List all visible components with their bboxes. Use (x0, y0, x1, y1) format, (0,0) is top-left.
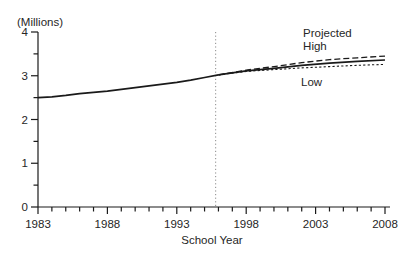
y-tick-label-2: 2 (22, 114, 28, 126)
y-tick-label-0: 0 (22, 201, 28, 213)
x-tick-label-1993: 1993 (164, 218, 190, 230)
x-axis-title: School Year (38, 234, 386, 246)
y-tick-label-1: 1 (22, 157, 28, 169)
x-tick-label-2008: 2008 (372, 218, 398, 230)
x-tick-label-1988: 1988 (95, 218, 121, 230)
x-tick-label-1998: 1998 (233, 218, 259, 230)
x-tick-label-1983: 1983 (25, 218, 51, 230)
chart-figure: 19831988199319982003200801234ProjectedHi… (0, 0, 405, 264)
line-chart: 19831988199319982003200801234ProjectedHi… (0, 0, 405, 264)
x-tick-label-2003: 2003 (303, 218, 329, 230)
y-tick-label-3: 3 (22, 70, 28, 82)
annotation-high: High (303, 40, 327, 52)
annotation-low: Low (301, 76, 323, 88)
series-actual (38, 75, 218, 98)
y-axis-unit-label: (Millions) (17, 16, 63, 28)
tick-labels: 19831988199319982003200801234 (22, 26, 398, 230)
annotation-projected: Projected (303, 27, 352, 39)
